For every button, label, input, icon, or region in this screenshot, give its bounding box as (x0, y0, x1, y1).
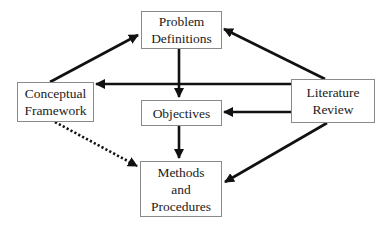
edge-literature-to-problem (224, 29, 325, 79)
node-label-line: Objectives (153, 105, 211, 122)
node-literature-review: Literature Review (291, 79, 375, 123)
edge-conceptual-to-problem (50, 35, 138, 82)
node-label-line: Framework (24, 102, 86, 119)
node-conceptual-framework: Conceptual Framework (17, 82, 94, 122)
node-objectives: Objectives (141, 100, 222, 126)
node-label-line: and (171, 181, 191, 198)
node-label-line: Procedures (151, 198, 211, 215)
node-label-line: Methods (157, 164, 204, 181)
node-methods-and-procedures: Methods and Procedures (140, 161, 222, 217)
edge-literature-to-methods (225, 123, 327, 182)
node-problem-definitions: Problem Definitions (141, 11, 222, 49)
node-label-line: Literature (306, 84, 359, 101)
node-label-line: Definitions (151, 30, 212, 47)
edge-conceptual-to-methods (55, 122, 137, 166)
node-label-line: Problem (159, 13, 205, 30)
node-label-line: Review (312, 101, 353, 118)
node-label-line: Conceptual (25, 85, 86, 102)
